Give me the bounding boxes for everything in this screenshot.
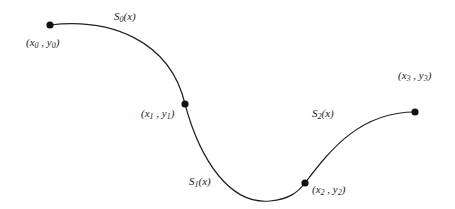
knot-label-0: (x0 , y0) [26, 36, 60, 50]
spline-diagram: (x0 , y0) (x1 , y1) (x2 , y2) (x3 , y3) … [0, 0, 455, 209]
knot-label-3: (x3 , y3) [398, 69, 432, 83]
knot-point-0 [46, 21, 53, 28]
knot-label-1: (x1 , y1) [141, 107, 175, 121]
segment-s0-curve [50, 24, 185, 104]
knot-point-2 [301, 179, 308, 186]
segment-label-s0: S0(x) [114, 10, 136, 24]
knot-point-1 [181, 100, 188, 107]
segment-label-s2: S2(x) [312, 107, 334, 121]
knot-label-2: (x2 , y2) [312, 183, 346, 197]
segment-s2-curve [305, 112, 415, 183]
knot-point-3 [411, 108, 418, 115]
segment-label-s1: S1(x) [189, 175, 211, 189]
